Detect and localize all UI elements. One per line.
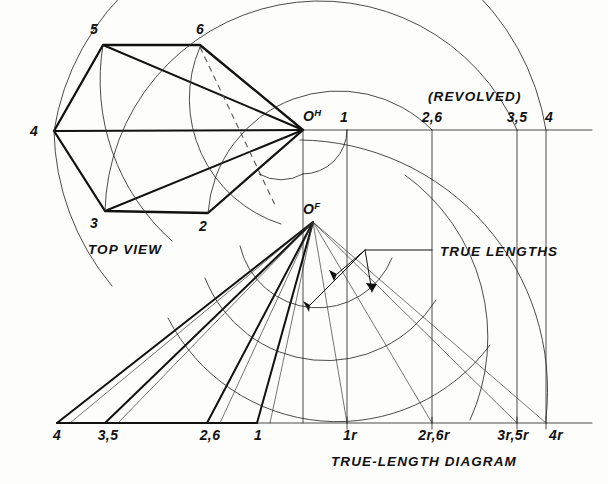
revolution-arc-1b xyxy=(259,174,303,180)
apex-top-label-superscript: H xyxy=(314,107,322,118)
vertex-label-2: 2 xyxy=(198,218,207,234)
front-element-O-1 xyxy=(257,222,313,423)
front-arc-outer2 xyxy=(300,140,548,418)
apex-front-label: OF xyxy=(303,200,321,217)
base-label-2-6: 2,6 xyxy=(199,427,221,443)
true-lengths-caption: TRUE LENGTHS xyxy=(440,244,558,259)
vertex-label-4: 4 xyxy=(29,123,38,139)
true-length-diagram-caption: TRUE-LENGTH DIAGRAM xyxy=(331,454,517,469)
revolved-station-label-4: 4 xyxy=(544,109,553,125)
baseline-labels-group: 4 3,5 2,6 1 1r 2r,6r 3r,5r 4r xyxy=(52,427,564,443)
base-label-4r: 4r xyxy=(548,427,564,443)
vertex-label-6: 6 xyxy=(196,21,204,37)
top-view-outline xyxy=(54,45,303,213)
true-lengths-leader-branch-3 xyxy=(310,250,365,305)
revolved-station-label-2-6: 2,6 xyxy=(421,109,443,125)
front-view-arcs-group xyxy=(168,140,548,422)
apex-top-label-base: O xyxy=(303,108,314,124)
apex-labels-group: OH OF xyxy=(303,107,322,217)
apex-front-label-base: O xyxy=(303,201,314,217)
true-length-ray-1r xyxy=(313,222,347,423)
revolved-station-labels-group: 1 2,6 3,5 4 xyxy=(340,109,553,125)
vertex-label-5: 5 xyxy=(90,21,98,37)
true-length-drawing: 5 6 4 3 2 OH OF 1 2,6 3,5 4 4 3,5 2,6 xyxy=(0,0,608,484)
base-label-2r-6r: 2r,6r xyxy=(417,427,451,443)
base-label-3r-5r: 3r,5r xyxy=(497,427,530,443)
top-view-group xyxy=(54,45,303,213)
base-label-4: 4 xyxy=(52,427,61,443)
front-arc-mid xyxy=(205,278,436,361)
revolved-station-label-1: 1 xyxy=(340,109,348,125)
base-label-1: 1 xyxy=(254,427,262,443)
revolution-arc-4 xyxy=(54,0,546,131)
top-view-element-O-4 xyxy=(54,130,303,131)
apex-top-label: OH xyxy=(303,107,322,124)
front-element-O-26 xyxy=(207,222,313,423)
front-arc-outer xyxy=(405,175,488,420)
true-lengths-leader-group xyxy=(303,250,432,312)
base-label-1r: 1r xyxy=(343,427,358,443)
revolution-arc-1 xyxy=(303,130,347,174)
revolution-arc-3 xyxy=(105,1,517,211)
top-view-hidden-element-O-6 xyxy=(200,47,275,205)
apex-front-label-superscript: F xyxy=(314,200,320,211)
top-view-caption: TOP VIEW xyxy=(88,242,162,257)
captions-group: TOP VIEW (REVOLVED) TRUE LENGTHS TRUE-LE… xyxy=(88,89,558,469)
true-length-ray-2r6r xyxy=(313,222,432,423)
vertex-label-3: 3 xyxy=(90,215,98,231)
revolved-caption: (REVOLVED) xyxy=(428,89,522,104)
engineering-drawing-canvas: 5 6 4 3 2 OH OF 1 2,6 3,5 4 4 3,5 2,6 xyxy=(0,0,608,484)
revolved-station-label-3-5: 3,5 xyxy=(507,109,528,125)
top-view-element-O-3 xyxy=(105,130,303,211)
top-view-element-O-5 xyxy=(103,45,303,130)
base-label-3-5: 3,5 xyxy=(98,427,119,443)
